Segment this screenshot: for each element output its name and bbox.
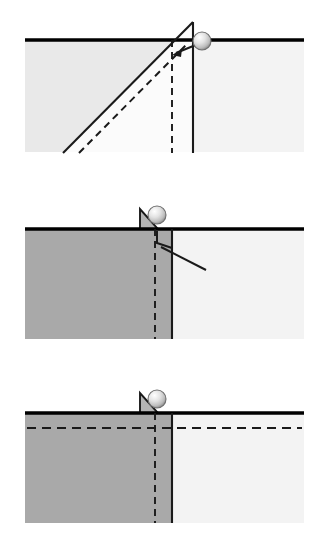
hanging-wall-left-block — [25, 413, 172, 523]
figure-canvas — [0, 0, 323, 554]
marker-ball — [148, 390, 166, 408]
marker-ball — [148, 206, 166, 224]
footwall-right-block — [193, 40, 304, 152]
panel-stage-1 — [0, 0, 323, 185]
footwall-right-block — [172, 229, 304, 339]
panel-stage-3 — [0, 369, 323, 554]
footwall-right-block — [172, 413, 304, 523]
marker-ball — [193, 32, 211, 50]
hanging-wall-left-block — [25, 229, 172, 339]
panel-stage-2 — [0, 185, 323, 370]
